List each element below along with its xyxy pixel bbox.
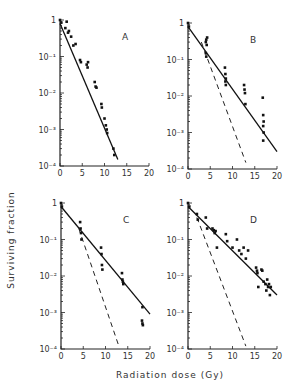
data-point xyxy=(236,238,239,241)
data-point xyxy=(105,124,108,127)
x-tick-label: 5 xyxy=(208,172,213,181)
data-point xyxy=(244,92,247,95)
data-point xyxy=(243,88,246,91)
y-tick-label: 10⁻¹ xyxy=(38,53,56,62)
data-point xyxy=(206,227,209,230)
y-tick-label: 1 xyxy=(52,199,57,208)
data-point xyxy=(255,266,258,269)
y-tick-label: 10⁻¹ xyxy=(166,56,184,65)
x-tick-label: 5 xyxy=(208,352,213,361)
fit-line xyxy=(60,24,118,160)
x-tick-label: 0 xyxy=(57,169,62,178)
data-point xyxy=(101,268,104,271)
x-tick-label: 0 xyxy=(58,352,63,361)
data-point xyxy=(106,132,109,135)
data-point xyxy=(242,246,245,249)
data-point xyxy=(79,227,82,230)
x-tick-label: 20 xyxy=(272,352,282,361)
panel-label: D xyxy=(250,215,257,225)
panel-a: 0510152010⁻⁴10⁻³10⁻²10⁻¹1A xyxy=(38,16,154,178)
x-tick-label: 10 xyxy=(100,352,110,361)
y-axis-label: Surviving fraction xyxy=(6,191,16,289)
data-point xyxy=(64,27,67,30)
data-point xyxy=(141,306,144,309)
data-point xyxy=(68,30,71,33)
x-tick-label: 0 xyxy=(185,172,190,181)
reference-dashed-line xyxy=(201,42,246,162)
y-tick-label: 10⁻⁴ xyxy=(38,162,56,171)
y-tick-label: 10⁻⁴ xyxy=(166,165,184,174)
data-point xyxy=(100,246,103,249)
data-point xyxy=(85,63,88,66)
data-point xyxy=(265,289,268,292)
data-point xyxy=(60,202,63,205)
data-point xyxy=(79,221,82,224)
data-point xyxy=(205,216,208,219)
data-point xyxy=(101,264,104,267)
data-point xyxy=(100,253,103,256)
x-tick-label: 5 xyxy=(80,169,85,178)
data-point xyxy=(112,147,115,150)
y-tick-label: 10⁻³ xyxy=(166,129,184,138)
data-point xyxy=(206,36,209,39)
data-point xyxy=(113,154,116,157)
reference-dashed-line xyxy=(79,229,119,347)
data-point xyxy=(187,22,190,25)
x-tick-label: 15 xyxy=(250,352,260,361)
panel-d: 0510152010⁻⁴10⁻³10⁻²10⁻¹1D xyxy=(166,199,282,361)
data-point xyxy=(224,66,227,69)
x-tick-label: 20 xyxy=(144,169,154,178)
survival-curves-figure: 0510152010⁻⁴10⁻³10⁻²10⁻¹1A0510152010⁻⁴10… xyxy=(0,0,298,392)
data-point xyxy=(231,246,234,249)
axes xyxy=(60,20,149,166)
y-tick-label: 1 xyxy=(179,19,184,28)
data-point xyxy=(187,202,190,205)
data-point xyxy=(122,283,125,286)
data-point xyxy=(225,84,228,87)
y-tick-label: 10⁻³ xyxy=(38,126,56,135)
data-point xyxy=(80,232,83,235)
data-point xyxy=(87,61,90,64)
data-point xyxy=(261,96,264,99)
data-point xyxy=(262,125,265,128)
y-tick-label: 10⁻³ xyxy=(166,309,184,318)
data-point xyxy=(224,73,227,76)
x-tick-label: 15 xyxy=(122,169,132,178)
data-point xyxy=(269,286,272,289)
data-point xyxy=(80,61,83,64)
data-point xyxy=(60,21,63,24)
data-point xyxy=(196,218,199,221)
data-point xyxy=(86,66,89,69)
x-tick-label: 15 xyxy=(123,352,133,361)
x-tick-label: 10 xyxy=(99,169,109,178)
x-tick-label: 0 xyxy=(185,352,190,361)
y-tick-label: 10⁻² xyxy=(39,272,57,281)
data-point xyxy=(196,213,199,216)
reference-dashed-line xyxy=(197,218,246,347)
panel-c: 0510152010⁻⁴10⁻³10⁻²10⁻¹1C xyxy=(39,199,155,361)
data-point xyxy=(261,269,264,272)
y-tick-label: 10⁻² xyxy=(38,89,56,98)
data-point xyxy=(121,272,124,275)
data-point xyxy=(267,286,270,289)
data-point xyxy=(256,272,259,275)
data-point xyxy=(142,324,145,327)
data-point xyxy=(105,128,108,131)
data-point xyxy=(74,43,77,46)
data-point xyxy=(269,294,272,297)
data-point xyxy=(243,84,246,87)
data-point xyxy=(257,286,260,289)
y-tick-label: 10⁻² xyxy=(166,92,184,101)
panel-label: C xyxy=(123,215,129,225)
data-point xyxy=(95,86,98,89)
y-tick-label: 1 xyxy=(51,16,56,25)
data-point xyxy=(266,278,269,281)
axes xyxy=(61,203,150,349)
y-tick-label: 10⁻⁴ xyxy=(39,345,57,354)
data-point xyxy=(216,246,219,249)
data-point xyxy=(72,44,75,47)
x-tick-label: 10 xyxy=(227,172,237,181)
x-tick-label: 5 xyxy=(81,352,86,361)
data-point xyxy=(205,41,208,44)
data-point xyxy=(141,319,144,322)
